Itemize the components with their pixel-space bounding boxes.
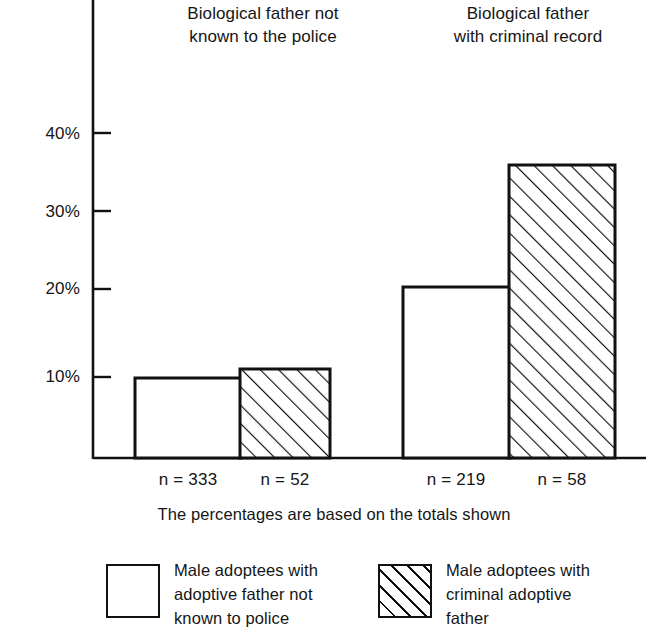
bar-4-n-label: n = 58 [507,470,617,490]
legend-swatch-hatched [378,564,432,618]
bar-2-hatched [240,369,330,458]
chart-caption: The percentages are based on the totals … [0,505,668,524]
bar-1-plain [135,378,241,458]
bar-2-n-label: n = 52 [230,470,340,490]
bar-3-plain [403,287,510,458]
legend-item-plain: Male adoptees with adoptive father not k… [106,558,318,630]
legend-label-plain: Male adoptees with adoptive father not k… [174,558,318,630]
legend-item-hatched: Male adoptees with criminal adoptive fat… [378,558,590,630]
legend-label-hatched: Male adoptees with criminal adoptive fat… [446,558,590,630]
bar-4-hatched [509,165,615,458]
legend-swatch-plain [106,564,160,618]
bar-1-n-label: n = 333 [133,470,243,490]
bar-3-n-label: n = 219 [401,470,511,490]
